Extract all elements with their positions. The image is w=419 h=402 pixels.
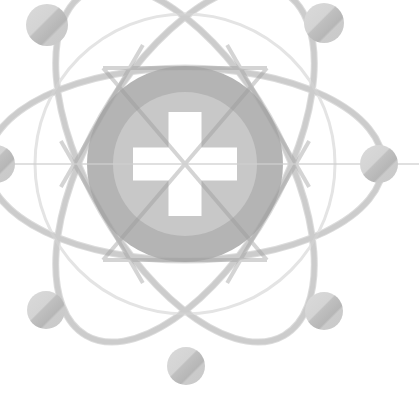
electron-bottom-center (167, 347, 205, 385)
logo-canvas (0, 0, 419, 402)
electron-bottom-right (305, 292, 343, 330)
electron-top-right (304, 3, 344, 43)
atom-medical-cross-logo (0, 0, 419, 402)
electron-bottom-left (27, 291, 65, 329)
electron-top-left (26, 4, 68, 46)
electron-right (360, 145, 398, 183)
